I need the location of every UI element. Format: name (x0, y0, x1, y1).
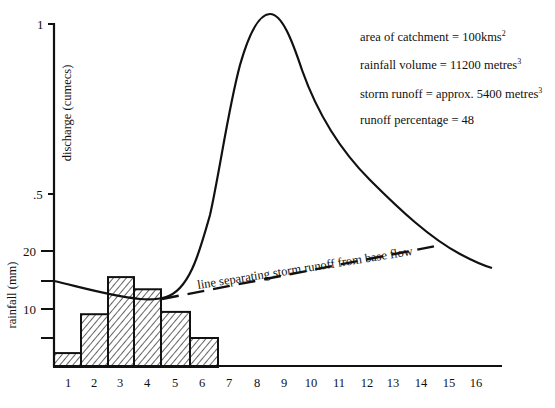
rainfall-bars (54, 277, 218, 367)
x-tick-label-5: 5 (172, 376, 178, 390)
x-tick-label-11: 11 (333, 376, 345, 390)
y-axis-title-rainfall: rainfall (mm) (5, 262, 19, 329)
y-axis-title-discharge: discharge (cumecs) (60, 65, 74, 162)
rainfall-bar-3 (108, 277, 134, 367)
x-tick-label-8: 8 (254, 376, 260, 390)
tick-label-20: 20 (23, 244, 36, 259)
separation-line-label: line separating storm runoff from base f… (196, 244, 413, 292)
annotation-runoff-sup: 3 (538, 86, 542, 95)
x-tick-label-7: 7 (226, 376, 232, 390)
annotation-rainfall-volume: rainfall volume = 11200 metres3 (360, 58, 521, 72)
rainfall-bar-4 (134, 289, 161, 367)
x-tick-label-6: 6 (199, 376, 205, 390)
annotation-area-text: area of catchment = 100kms (360, 30, 502, 44)
annotation-runoff-percentage: runoff percentage = 48 (360, 114, 474, 127)
annotation-area-sup: 2 (502, 29, 506, 38)
x-tick-label-1: 1 (65, 376, 71, 390)
x-tick-label-12: 12 (361, 376, 374, 390)
tick-label-10: 10 (23, 302, 36, 317)
x-tick-label-14: 14 (415, 376, 428, 390)
rainfall-bar-1 (54, 353, 81, 367)
rainfall-bar-2 (81, 314, 108, 367)
annotation-rainfall-text: rainfall volume = 11200 metres (360, 58, 517, 72)
tick-label-1: 1 (37, 17, 44, 32)
x-tick-label-13: 13 (387, 376, 400, 390)
x-tick-label-16: 16 (470, 376, 483, 390)
x-axis-labels: 12345678910111213141516 (65, 376, 482, 390)
x-tick-label-9: 9 (281, 376, 287, 390)
rainfall-bar-5 (161, 312, 190, 367)
x-tick-label-10: 10 (305, 376, 318, 390)
annotation-runoff-text: storm runoff = approx. 5400 metres (360, 87, 538, 101)
rainfall-bar-6 (190, 338, 218, 367)
annotation-storm-runoff: storm runoff = approx. 5400 metres3 (360, 87, 542, 101)
annotation-area: area of catchment = 100kms2 (360, 30, 506, 44)
x-tick-label-4: 4 (144, 376, 151, 390)
hydrograph-curve (54, 14, 492, 299)
x-tick-label-2: 2 (91, 376, 97, 390)
x-tick-label-3: 3 (117, 376, 123, 390)
annotation-rainfall-sup: 3 (517, 57, 521, 66)
annotation-percentage-text: runoff percentage = 48 (360, 113, 474, 127)
x-tick-label-15: 15 (443, 376, 456, 390)
tick-label-half: .5 (33, 187, 43, 202)
